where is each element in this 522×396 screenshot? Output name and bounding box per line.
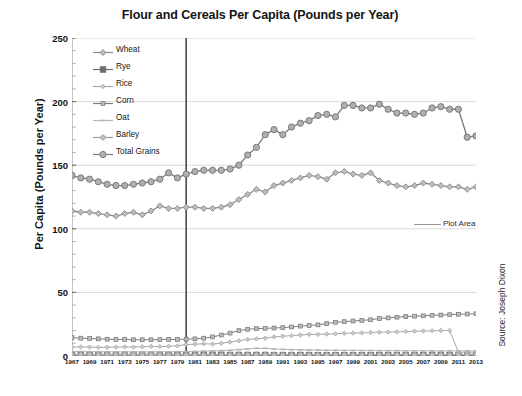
data-point-marker — [87, 209, 93, 215]
data-point-marker — [360, 318, 364, 322]
data-point-marker — [132, 338, 136, 342]
legend-label: Wheat — [116, 45, 140, 54]
data-point-marker — [403, 184, 409, 190]
data-point-marker — [149, 344, 153, 348]
data-point-marker — [236, 197, 242, 203]
data-point-marker — [218, 204, 224, 210]
data-point-marker — [193, 337, 197, 341]
data-point-marker — [342, 320, 346, 324]
data-point-marker — [333, 332, 337, 336]
x-axis-tick-label: 1981 — [188, 358, 202, 365]
legend-item-rye[interactable]: Rye — [92, 58, 188, 75]
chart-title: Flour and Cereals Per Capita (Pounds per… — [60, 8, 460, 22]
y-axis-tick-labels: 050100150200250 — [36, 0, 68, 396]
data-point-marker — [131, 345, 135, 349]
x-axis-tick-label: 2001 — [364, 358, 378, 365]
data-point-marker — [79, 345, 83, 349]
data-point-marker — [72, 208, 75, 214]
data-point-marker — [113, 182, 119, 188]
data-point-marker — [228, 340, 232, 344]
data-point-marker — [228, 331, 232, 335]
data-point-marker — [174, 205, 180, 211]
x-axis-tick-label: 1975 — [135, 358, 149, 365]
data-point-marker — [359, 172, 365, 178]
data-point-marker — [105, 345, 109, 349]
legend-item-total-grains[interactable]: Total Grains — [92, 143, 188, 160]
y-axis-tick-label: 250 — [36, 33, 68, 44]
y-axis-tick-label: 100 — [36, 223, 68, 234]
x-axis-tick-label: 1999 — [346, 358, 360, 365]
x-axis-tick-label: 1967 — [65, 358, 79, 365]
data-point-marker — [72, 172, 75, 178]
data-point-marker — [78, 175, 84, 181]
chart-legend: WheatRyeRiceCornOatBarleyTotal Grains — [92, 41, 188, 160]
data-point-marker — [465, 312, 469, 316]
data-point-marker — [350, 171, 356, 177]
data-point-marker — [209, 167, 215, 173]
data-point-marker — [316, 332, 320, 336]
x-axis-tick-label: 1991 — [276, 358, 290, 365]
data-point-marker — [192, 204, 198, 210]
data-point-marker — [86, 176, 92, 182]
data-point-marker — [421, 329, 425, 333]
legend-item-rice[interactable]: Rice — [92, 75, 188, 92]
data-point-marker — [394, 183, 400, 189]
legend-label: Oat — [116, 113, 129, 122]
data-point-marker — [368, 330, 372, 334]
x-axis-tick-label: 1979 — [171, 358, 185, 365]
data-point-marker — [245, 191, 251, 197]
x-axis-tick-label: 2003 — [381, 358, 395, 365]
data-point-marker — [324, 111, 330, 117]
data-point-marker — [412, 329, 416, 333]
legend-item-wheat[interactable]: Wheat — [92, 41, 188, 58]
data-point-marker — [439, 328, 443, 332]
data-point-marker — [298, 333, 302, 337]
data-point-marker — [175, 344, 179, 348]
data-point-marker — [158, 344, 162, 348]
legend-item-oat[interactable]: Oat — [92, 109, 188, 126]
x-axis-tick-label: 1983 — [206, 358, 220, 365]
x-axis-tick-label: 2013 — [469, 358, 483, 365]
data-point-marker — [148, 179, 154, 185]
data-point-marker — [72, 336, 74, 340]
data-point-marker — [246, 327, 250, 331]
data-point-marker — [341, 102, 347, 108]
data-point-marker — [307, 324, 311, 328]
data-point-marker — [254, 337, 258, 341]
data-point-marker — [100, 151, 106, 157]
data-point-marker — [96, 345, 100, 349]
legend-marker-icon — [92, 129, 114, 140]
data-point-marker — [288, 124, 294, 130]
data-point-marker — [395, 330, 399, 334]
data-point-marker — [100, 50, 106, 56]
data-point-marker — [464, 134, 470, 140]
data-point-marker — [429, 105, 435, 111]
data-point-marker — [439, 313, 443, 317]
legend-label: Total Grains — [116, 147, 160, 156]
data-point-marker — [306, 118, 312, 124]
data-point-marker — [219, 341, 223, 345]
data-point-marker — [412, 183, 418, 189]
data-point-marker — [420, 180, 426, 186]
data-point-marker — [376, 101, 382, 107]
data-point-marker — [351, 319, 355, 323]
series-wheat — [72, 169, 476, 220]
data-point-marker — [448, 313, 452, 317]
data-point-marker — [88, 337, 92, 341]
data-point-marker — [167, 338, 171, 342]
legend-item-corn[interactable]: Corn — [92, 92, 188, 109]
data-point-marker — [105, 337, 109, 341]
legend-item-barley[interactable]: Barley — [92, 126, 188, 143]
data-point-marker — [289, 177, 295, 183]
data-point-marker — [201, 205, 207, 211]
data-point-marker — [140, 345, 144, 349]
legend-marker-icon — [92, 61, 114, 72]
data-point-marker — [202, 342, 206, 346]
data-point-marker — [113, 213, 119, 219]
data-point-marker — [457, 312, 461, 316]
data-point-marker — [114, 338, 118, 342]
data-point-marker — [219, 333, 223, 337]
data-point-marker — [253, 144, 259, 150]
data-point-marker — [280, 180, 286, 186]
data-point-marker — [369, 318, 373, 322]
